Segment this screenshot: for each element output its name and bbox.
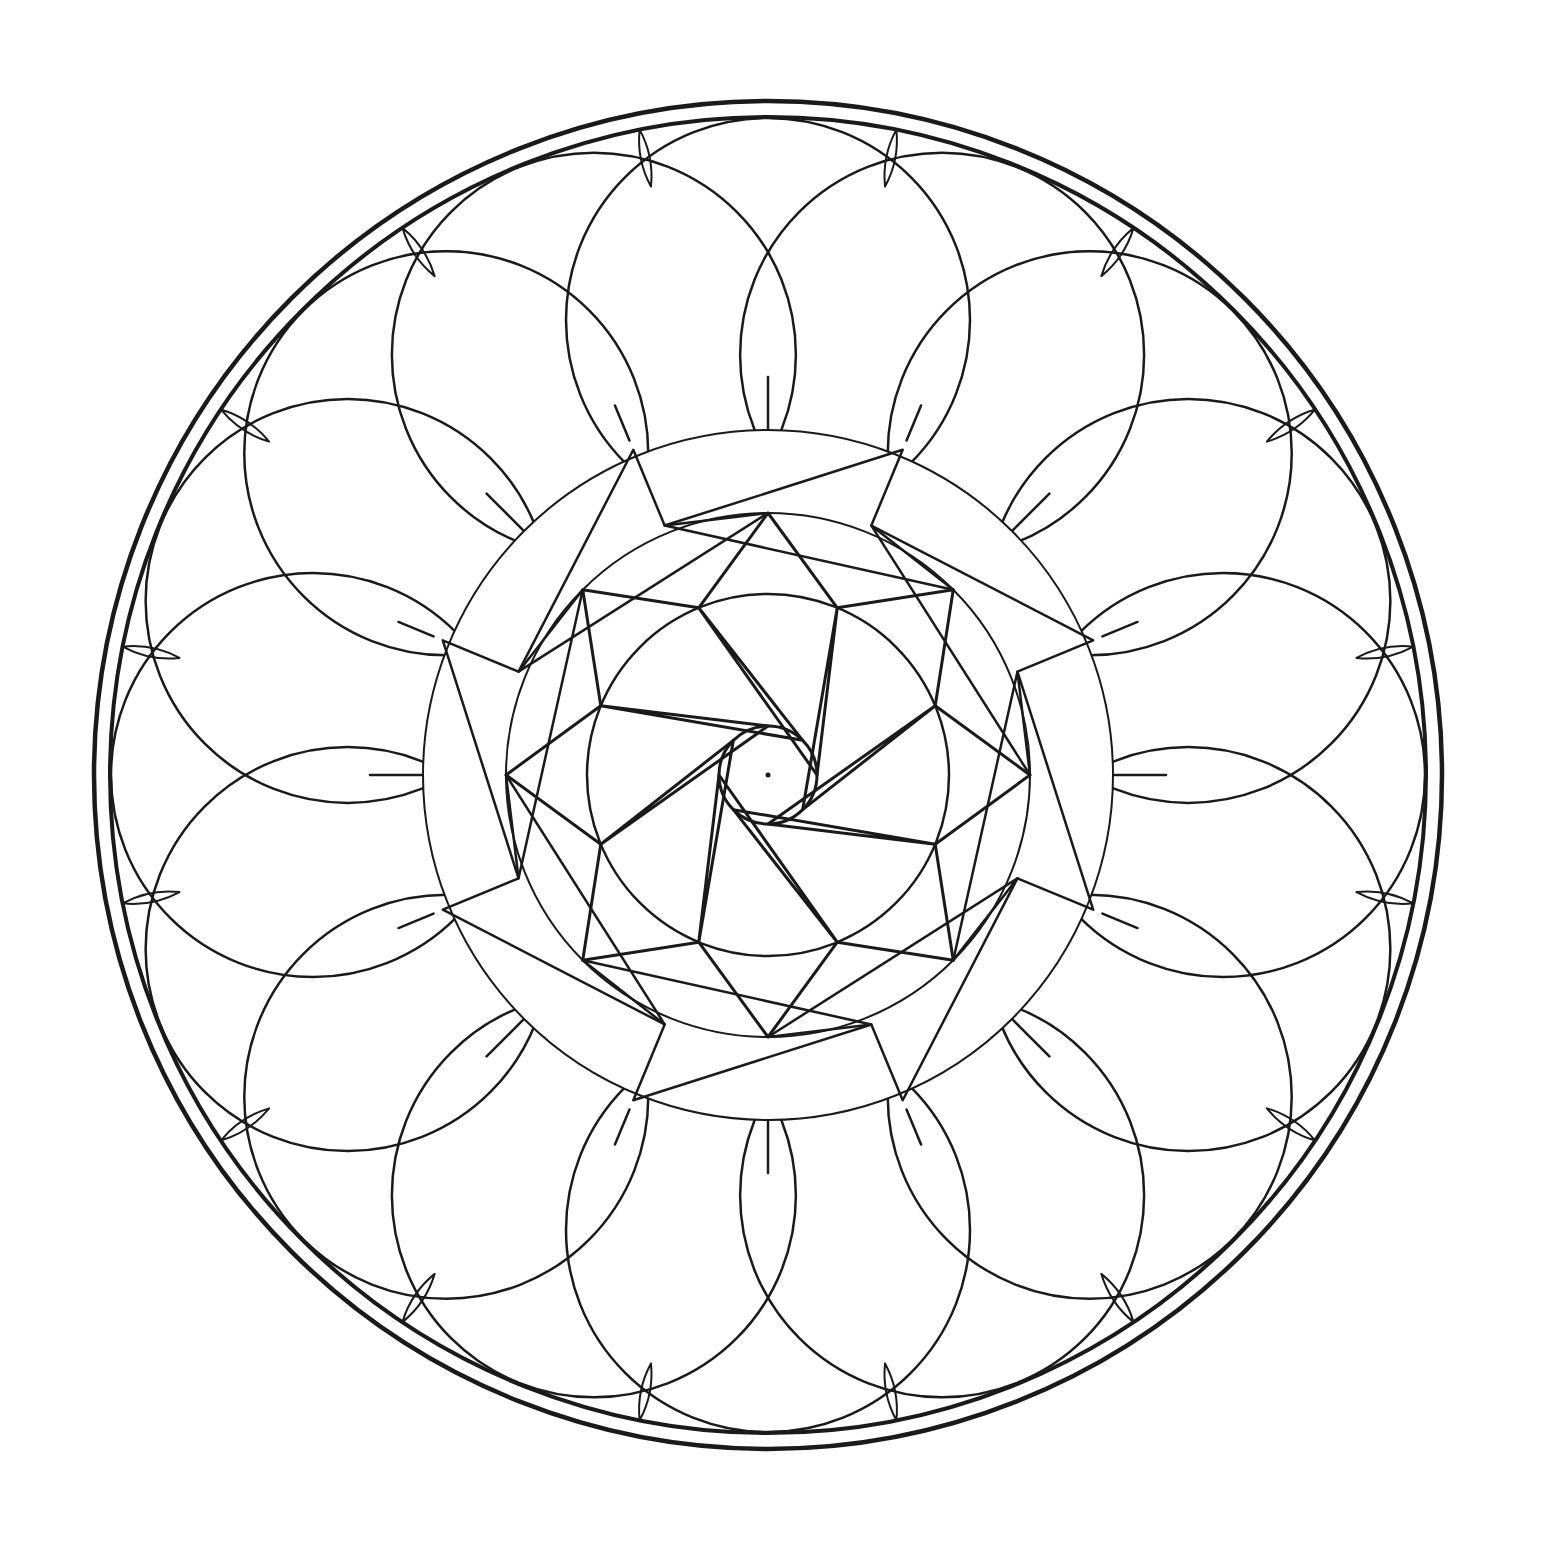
mandala-canvas [0, 0, 1542, 1543]
mandala-drawing [0, 0, 1542, 1543]
spoke-diagonal [1102, 914, 1137, 929]
spoke [487, 1019, 524, 1056]
spoke-diagonal [615, 1109, 630, 1144]
spoke-diagonal [398, 622, 433, 637]
spoke [1012, 1019, 1049, 1056]
spoke [487, 494, 524, 531]
spoke-diagonal [907, 405, 922, 440]
spoke-diagonal [398, 914, 433, 929]
hub-dot [766, 773, 771, 778]
spoke [1012, 494, 1049, 531]
spoke-diagonal [907, 1109, 922, 1144]
spoke-diagonal [1102, 622, 1137, 637]
spoke-diagonal [615, 405, 630, 440]
